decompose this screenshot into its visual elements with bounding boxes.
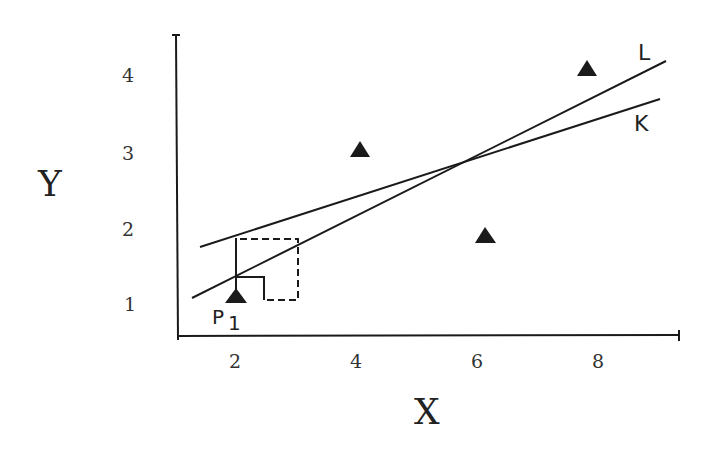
data-point-2 bbox=[350, 141, 370, 157]
data-points bbox=[225, 60, 597, 303]
x-axis bbox=[178, 335, 679, 336]
residual-construction bbox=[236, 238, 298, 300]
regression-lines bbox=[192, 61, 666, 298]
line-L bbox=[192, 61, 666, 298]
y-tick-3: 3 bbox=[122, 142, 134, 164]
y-tick-2: 2 bbox=[122, 218, 134, 240]
axes bbox=[172, 35, 679, 341]
data-point-4 bbox=[577, 60, 597, 76]
y-axis-title: Y bbox=[37, 163, 63, 204]
scatter-chart: 4 3 2 1 2 4 6 8 Y X L K P 1 bbox=[0, 0, 704, 451]
point-p1-subscript: 1 bbox=[228, 311, 241, 335]
point-p1-label: P bbox=[212, 305, 224, 329]
line-L-label: L bbox=[638, 40, 651, 65]
x-tick-8: 8 bbox=[592, 350, 604, 372]
data-point-3 bbox=[475, 227, 496, 243]
x-tick-2: 2 bbox=[229, 350, 241, 372]
line-K bbox=[200, 99, 660, 247]
y-axis bbox=[176, 35, 178, 340]
y-tick-1: 1 bbox=[124, 293, 136, 315]
data-point-p1 bbox=[225, 288, 247, 303]
x-tick-4: 4 bbox=[350, 350, 362, 372]
x-axis-title: X bbox=[414, 391, 440, 432]
y-tick-4: 4 bbox=[122, 64, 134, 86]
line-K-label: K bbox=[634, 111, 649, 136]
x-tick-labels: 2 4 6 8 bbox=[229, 350, 604, 372]
x-tick-6: 6 bbox=[471, 350, 483, 372]
y-tick-labels: 4 3 2 1 bbox=[122, 64, 136, 315]
